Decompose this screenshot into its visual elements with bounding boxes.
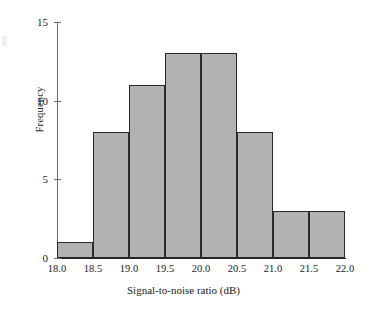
histogram-bar — [237, 132, 273, 258]
x-axis-line — [57, 258, 346, 259]
x-axis-label: Signal-to-noise ratio (dB) — [0, 284, 367, 297]
plot-area — [57, 22, 345, 258]
histogram-bar — [165, 53, 201, 258]
histogram-bar — [57, 242, 93, 258]
histogram-bar — [129, 85, 165, 258]
histogram-bar — [201, 53, 237, 258]
histogram-bar — [309, 211, 345, 258]
histogram-figure: 051015 18.018.519.019.520.020.521.021.52… — [0, 0, 367, 310]
histogram-bar — [273, 211, 309, 258]
y-tick-label: 15 — [18, 17, 48, 28]
scan-artifact — [2, 36, 7, 46]
histogram-bar — [93, 132, 129, 258]
y-tick-label: 5 — [18, 174, 48, 185]
y-axis-label: Frequency — [34, 65, 45, 155]
x-tick-label: 22.0 — [323, 263, 367, 275]
y-tick-mark — [54, 258, 61, 259]
